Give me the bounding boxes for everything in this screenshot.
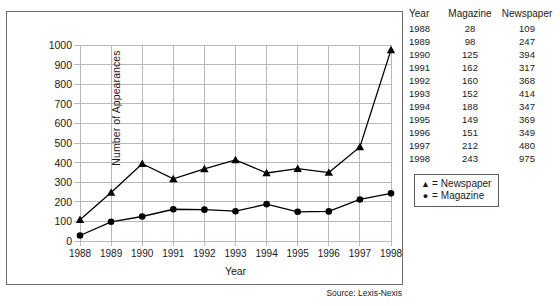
y-tick-label: 800 <box>12 79 72 89</box>
y-tick-label: 400 <box>12 158 72 168</box>
cell-year: 1998 <box>409 152 443 165</box>
table-header: Year Magazine Newspaper <box>409 8 557 22</box>
cell-year: 1988 <box>409 22 443 35</box>
data-point-magazine-1992 <box>201 206 208 213</box>
y-tick-label: 600 <box>12 118 72 128</box>
cell-newspaper: 480 <box>497 139 557 152</box>
data-point-magazine-1991 <box>170 206 177 213</box>
legend-label: Magazine <box>441 190 484 202</box>
data-point-newspaper-1993 <box>231 156 239 163</box>
data-table: Year Magazine Newspaper 1988281091989982… <box>409 8 557 165</box>
data-point-newspaper-1998 <box>387 46 395 53</box>
table-row: 198998247 <box>409 35 557 48</box>
cell-year: 1994 <box>409 100 443 113</box>
table-body: 1988281091989982471990125394199116231719… <box>409 22 557 165</box>
legend: ▲=Newspaper●=Magazine <box>414 174 499 207</box>
table-row: 1990125394 <box>409 48 557 61</box>
data-point-newspaper-1990 <box>138 160 146 167</box>
cell-newspaper: 317 <box>497 61 557 74</box>
circle-marker-icon: ● <box>420 190 431 202</box>
legend-equals: = <box>432 190 438 202</box>
table-row: 1997212480 <box>409 139 557 152</box>
cell-year: 1992 <box>409 74 443 87</box>
cell-newspaper: 347 <box>497 100 557 113</box>
cell-magazine: 28 <box>443 22 497 35</box>
y-tick-label: 200 <box>12 197 72 207</box>
legend-label: Newspaper <box>441 178 492 190</box>
table-row: 1998243975 <box>409 152 557 165</box>
y-tick-label: 0 <box>12 236 72 246</box>
plot-svg <box>80 45 391 241</box>
y-tick-label: 100 <box>12 216 72 226</box>
table-row: 1994188347 <box>409 100 557 113</box>
y-tick-label: 900 <box>12 60 72 70</box>
data-point-magazine-1997 <box>357 196 364 203</box>
data-point-magazine-1998 <box>388 190 395 197</box>
table-row: 198828109 <box>409 22 557 35</box>
cell-year: 1997 <box>409 139 443 152</box>
y-tick-label: 1000 <box>12 40 72 50</box>
cell-year: 1996 <box>409 126 443 139</box>
data-point-magazine-1993 <box>232 208 239 215</box>
x-axis-title: Year <box>80 265 391 277</box>
plot-area: Number of Appearances 100090080070060050… <box>80 45 391 241</box>
data-point-magazine-1995 <box>294 208 301 215</box>
cell-year: 1993 <box>409 87 443 100</box>
legend-item-newspaper: ▲=Newspaper <box>420 178 491 190</box>
column-header-newspaper: Newspaper <box>497 8 557 22</box>
cell-newspaper: 414 <box>497 87 557 100</box>
cell-magazine: 125 <box>443 48 497 61</box>
data-point-magazine-1988 <box>77 232 84 239</box>
cell-year: 1995 <box>409 113 443 126</box>
data-point-magazine-1989 <box>108 218 115 225</box>
column-header-magazine: Magazine <box>443 8 497 22</box>
table-row: 1995149369 <box>409 113 557 126</box>
data-point-magazine-1994 <box>263 201 270 208</box>
y-axis-title: Number of Appearances <box>110 33 122 183</box>
table-row: 1991162317 <box>409 61 557 74</box>
data-point-magazine-1990 <box>139 213 146 220</box>
cell-year: 1989 <box>409 35 443 48</box>
data-point-newspaper-1997 <box>356 143 364 150</box>
cell-newspaper: 109 <box>497 22 557 35</box>
source-note: Source: Lexis-Nexis <box>250 288 402 298</box>
legend-equals: = <box>432 178 438 190</box>
cell-magazine: 188 <box>443 100 497 113</box>
table-row: 1993152414 <box>409 87 557 100</box>
table-header-row: Year Magazine Newspaper <box>409 8 557 22</box>
chart-frame: Number of Appearances 100090080070060050… <box>6 11 403 285</box>
table-row: 1996151349 <box>409 126 557 139</box>
legend-item-magazine: ●=Magazine <box>420 190 491 202</box>
y-tick-label: 500 <box>12 138 72 148</box>
cell-newspaper: 369 <box>497 113 557 126</box>
column-header-year: Year <box>409 8 443 22</box>
cell-magazine: 152 <box>443 87 497 100</box>
cell-newspaper: 368 <box>497 74 557 87</box>
cell-year: 1990 <box>409 48 443 61</box>
table-row: 1992160368 <box>409 74 557 87</box>
y-tick-label: 700 <box>12 99 72 109</box>
cell-magazine: 160 <box>443 74 497 87</box>
cell-newspaper: 975 <box>497 152 557 165</box>
cell-newspaper: 247 <box>497 35 557 48</box>
cell-newspaper: 394 <box>497 48 557 61</box>
cell-newspaper: 349 <box>497 126 557 139</box>
chart-screenshot: Number of Appearances 100090080070060050… <box>0 0 560 306</box>
cell-magazine: 149 <box>443 113 497 126</box>
cell-magazine: 151 <box>443 126 497 139</box>
cell-year: 1991 <box>409 61 443 74</box>
cell-magazine: 98 <box>443 35 497 48</box>
x-tick-label: 1998 <box>371 248 411 259</box>
y-tick-label: 300 <box>12 177 72 187</box>
triangle-marker-icon: ▲ <box>420 178 431 190</box>
data-point-newspaper-1995 <box>294 164 302 171</box>
data-point-magazine-1996 <box>326 208 333 215</box>
cell-magazine: 243 <box>443 152 497 165</box>
cell-magazine: 162 <box>443 61 497 74</box>
cell-magazine: 212 <box>443 139 497 152</box>
